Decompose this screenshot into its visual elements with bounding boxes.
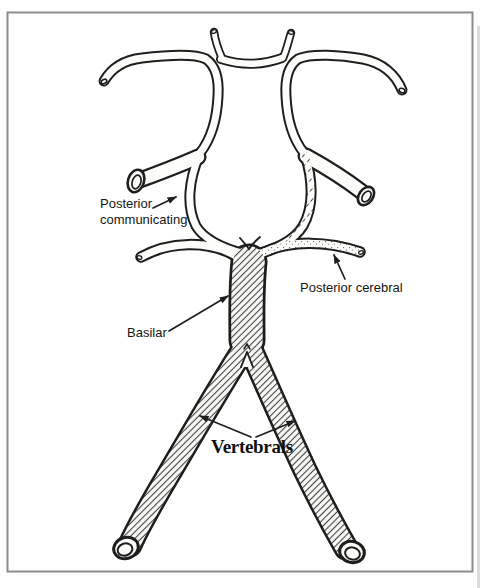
label-posterior-communicating-line2: communicating	[100, 212, 187, 228]
label-basilar: Basilar	[127, 325, 167, 341]
page-edge-shadow	[477, 26, 480, 588]
basilar-artery	[247, 262, 249, 340]
posterior-cerebral-arrow	[334, 255, 345, 279]
basilar-arrow	[169, 296, 228, 331]
label-posterior-cerebral: Posterior cerebral	[300, 280, 403, 296]
label-vertebrals: Vertebrals	[211, 439, 293, 455]
right-branch-tip-opening	[288, 30, 294, 35]
scanned-figure-page: Posterior communicating Posterior cerebr…	[0, 0, 485, 588]
label-posterior-communicating-line1: Posterior	[100, 196, 187, 212]
right-middle-cerebral-sweep	[286, 55, 402, 153]
label-posterior-communicating: Posterior communicating	[100, 196, 187, 227]
right-wing-tip-opening	[358, 250, 364, 255]
circle-of-willis-diagram	[0, 0, 485, 588]
